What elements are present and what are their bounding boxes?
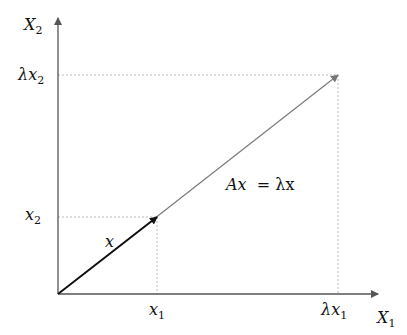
diagram-graphics bbox=[0, 0, 407, 335]
equation-left: Ax bbox=[226, 175, 247, 194]
x-vector bbox=[58, 217, 157, 294]
equation-right: = λx bbox=[257, 175, 295, 194]
vector-x-label: x bbox=[105, 232, 114, 251]
tick-x1: x1 bbox=[149, 300, 165, 322]
x-axis-label: X1 bbox=[377, 308, 395, 330]
tick-x2: x2 bbox=[25, 205, 41, 227]
tick-lambda-x1: λx1 bbox=[321, 300, 347, 322]
eigen-equation: Ax = λx bbox=[226, 175, 294, 194]
y-axis-label: X2 bbox=[24, 15, 42, 37]
eigenvector-diagram: X2 λx2 x2 x1 λx1 X1 x Ax = λx bbox=[0, 0, 407, 335]
tick-lambda-x2: λx2 bbox=[18, 65, 44, 87]
